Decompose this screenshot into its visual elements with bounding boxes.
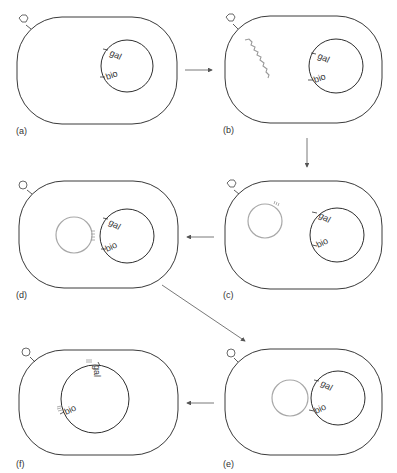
gene-gal-label: gal: [92, 365, 102, 377]
gene-gal-label: gal: [319, 378, 334, 393]
panel-label: (b): [223, 125, 234, 135]
phage-dna-circular: [56, 217, 92, 253]
panel-e: gal bio (e): [223, 349, 382, 469]
cell-outline: [225, 349, 382, 455]
panel-b: gal bio (b): [223, 14, 382, 135]
panel-label: (c): [223, 290, 234, 300]
gene-bio-label: bio: [312, 71, 327, 85]
phage-icon: [227, 180, 239, 194]
gene-bio-label: bio: [63, 403, 78, 417]
gene-bio-label: bio: [104, 240, 119, 254]
chromosome: [101, 40, 153, 92]
lambda-integration-diagram: gal bio (a) gal bio (b) gal: [0, 0, 397, 473]
phage-icon: [19, 15, 31, 29]
panel-label: (d): [16, 290, 27, 300]
gene-gal-label: gal: [107, 217, 122, 232]
phage-icon: [19, 181, 32, 194]
gene-bio-label: bio: [104, 68, 119, 82]
chromosome: [311, 371, 365, 425]
gene-gal-label: gal: [316, 51, 331, 65]
panel-label: (e): [223, 459, 234, 469]
panel-d: gal bio (d): [16, 181, 178, 300]
panel-a: gal bio (a): [16, 15, 177, 136]
cell-outline: [225, 16, 382, 123]
phage-dna-circular: [272, 380, 308, 416]
phage-dna-linear: [245, 39, 269, 78]
phage-icon: [227, 349, 238, 362]
gene-gal-label: gal: [108, 48, 123, 62]
chromosome: [309, 39, 363, 93]
panel-f: gal bio (f): [16, 348, 178, 469]
phage-icon: [226, 14, 238, 29]
panel-label: (a): [16, 126, 27, 136]
gene-bio-label: bio: [315, 236, 330, 250]
panel-label: (f): [16, 459, 25, 469]
gene-bio-label: bio: [313, 402, 328, 416]
panel-c: gal bio (c): [223, 180, 382, 300]
phage-dna-circular: [248, 204, 282, 238]
chromosome: [100, 209, 154, 263]
phage-icon: [22, 348, 35, 362]
cell-outline: [225, 181, 382, 289]
gene-gal-label: gal: [317, 210, 332, 225]
